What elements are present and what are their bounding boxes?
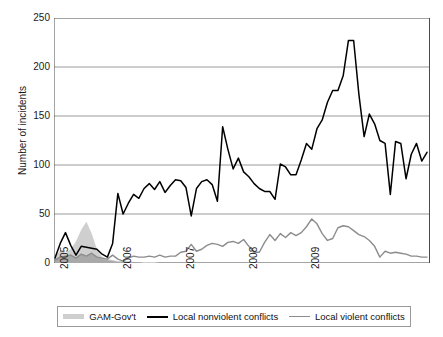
x-tick-label-2008: 2008: [248, 247, 259, 269]
line-swatch-black-icon: [147, 316, 168, 318]
x-tick-label-2007: 2007: [185, 247, 196, 269]
line-swatch-gray-icon: [289, 316, 310, 318]
legend-item-gam-gov: GAM-Gov't: [63, 311, 136, 322]
incidents-line-chart: Number of incidents 050100150200250 2005…: [0, 0, 443, 337]
legend-label-gam-gov: GAM-Gov't: [89, 311, 136, 322]
x-axis-tick-labels: 20052006200720082009: [0, 0, 443, 337]
legend-label-nonviolent: Local nonviolent conflicts: [173, 311, 279, 322]
area-swatch-icon: [63, 314, 84, 319]
x-tick-label-2009: 2009: [310, 247, 321, 269]
chart-legend: GAM-Gov't Local nonviolent conflicts Loc…: [57, 306, 411, 327]
legend-item-violent: Local violent conflicts: [289, 311, 405, 322]
legend-item-nonviolent: Local nonviolent conflicts: [147, 311, 279, 322]
legend-label-violent: Local violent conflicts: [315, 311, 405, 322]
x-tick-label-2005: 2005: [59, 247, 70, 269]
x-tick-label-2006: 2006: [122, 247, 133, 269]
